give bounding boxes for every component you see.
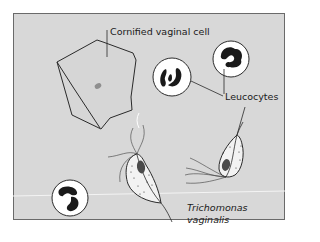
leucocyte-leader-lines (191, 69, 245, 135)
leucocyte-3 (52, 180, 88, 216)
label-leucocytes: Leucocytes (225, 92, 278, 102)
label-cornified-vaginal-cell: Cornified vaginal cell (110, 27, 210, 37)
fold-mark (137, 113, 139, 128)
leucocyte-1 (153, 58, 191, 96)
trichomonas-vaginalis-2 (185, 122, 243, 183)
cornified-vaginal-cell (57, 30, 136, 129)
label-trichomonas-line2: vaginalis (187, 214, 248, 226)
leucocyte-2 (213, 41, 249, 77)
label-trichomonas-vaginalis: Trichomonas vaginalis (187, 202, 248, 226)
label-trichomonas-line1: Trichomonas (187, 202, 248, 214)
trichomonas-vaginalis-1 (108, 125, 172, 222)
